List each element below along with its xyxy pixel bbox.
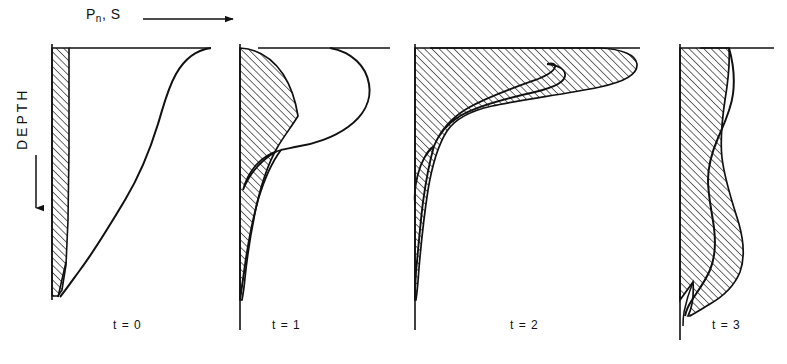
panel-t0 <box>52 44 211 300</box>
panel-t3 <box>680 44 774 340</box>
panel-t1 <box>240 44 390 330</box>
depth-axis-label: DEPTH <box>14 88 30 150</box>
top-axis-label: Pn, S <box>86 6 121 24</box>
panel-label-t0: t = 0 <box>113 318 142 332</box>
top-axis-label-p: P <box>86 6 96 22</box>
curve-pn-t0 <box>60 48 211 297</box>
top-axis-label-rest: , S <box>102 6 121 22</box>
panel-t2 <box>415 44 640 330</box>
panel-label-t3: t = 3 <box>712 318 741 332</box>
panel-label-t2: t = 2 <box>510 318 539 332</box>
panel-label-t1: t = 1 <box>272 318 301 332</box>
hatched-region-t2 <box>415 48 637 300</box>
hatched-region-t0 <box>52 48 69 296</box>
figure-canvas <box>0 0 787 364</box>
